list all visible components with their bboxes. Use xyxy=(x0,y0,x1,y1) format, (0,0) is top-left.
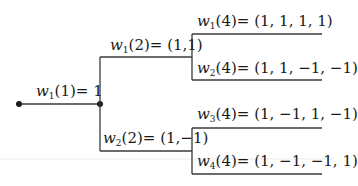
label-value: = (1, 1, 1, 1) xyxy=(237,12,333,30)
label-argument: (4) xyxy=(216,105,237,123)
label-variable: w xyxy=(110,36,123,54)
label-argument: (4) xyxy=(216,152,237,170)
root-node-dot xyxy=(16,101,22,107)
label-argument: (4) xyxy=(216,59,237,77)
level2-top-label: w1(2)= (1,1) xyxy=(110,38,203,55)
label-value: = (1, −1, 1, −1) xyxy=(237,105,358,123)
label-variable: w xyxy=(197,152,210,170)
label-argument: (2) xyxy=(122,129,143,147)
label-value: = (1,1) xyxy=(150,36,203,54)
label-value: = (1, 1, −1, −1) xyxy=(237,59,358,77)
leaf-label-4: w4(4)= (1, −1, −1, 1) xyxy=(197,154,358,171)
label-value: = (1,−1) xyxy=(143,129,208,147)
label-variable: w xyxy=(197,12,210,30)
level2-bottom-label: w2(2)= (1,−1) xyxy=(103,131,208,148)
label-variable: w xyxy=(197,59,210,77)
label-variable: w xyxy=(103,129,116,147)
label-variable: w xyxy=(36,82,49,100)
label-value: = 1 xyxy=(76,82,103,100)
label-argument: (4) xyxy=(216,12,237,30)
leaf-label-3: w3(4)= (1, −1, 1, −1) xyxy=(197,107,358,124)
label-value: = (1, −1, −1, 1) xyxy=(237,152,358,170)
label-argument: (1) xyxy=(55,82,76,100)
label-argument: (2) xyxy=(129,36,150,54)
leaf-label-2: w2(4)= (1, 1, −1, −1) xyxy=(197,61,358,78)
leaf-label-1: w1(4)= (1, 1, 1, 1) xyxy=(197,14,333,31)
root-label: w1(1)= 1 xyxy=(36,84,103,101)
label-variable: w xyxy=(197,105,210,123)
